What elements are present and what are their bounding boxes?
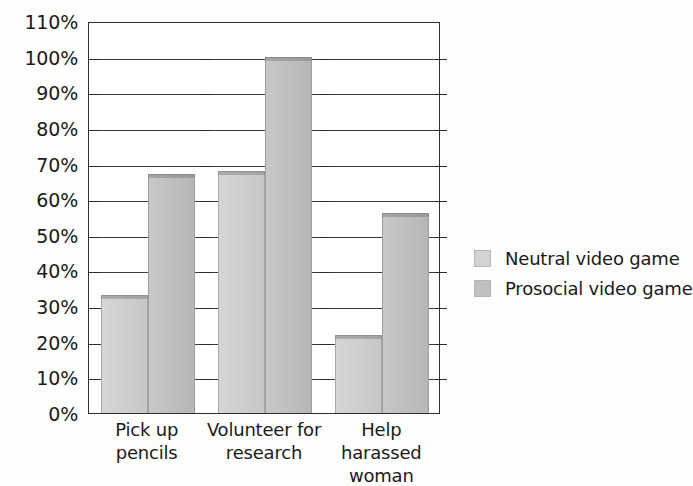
bar <box>382 213 429 413</box>
y-axis-tick-label: 100% <box>24 47 78 69</box>
axis-tickmark <box>89 166 101 167</box>
axis-tickmark <box>200 272 212 273</box>
legend-swatch-icon <box>474 280 491 297</box>
bar-top-highlight <box>265 57 312 61</box>
y-axis-tick-label: 0% <box>48 403 78 425</box>
y-axis-tick-label: 60% <box>36 189 78 211</box>
axis-tickmark <box>435 59 447 60</box>
bar <box>218 171 265 413</box>
axis-tickmark <box>435 344 447 345</box>
axis-tickmark <box>435 379 447 380</box>
y-axis-tick-label: 10% <box>36 367 78 389</box>
bars-layer <box>89 23 439 413</box>
x-axis-category-label: Pick up pencils <box>88 418 205 464</box>
x-axis-label-line: woman <box>323 464 440 486</box>
axis-tickmark <box>89 272 101 273</box>
axis-tickmark <box>89 201 101 202</box>
bar <box>265 57 312 413</box>
axis-tickmark <box>318 166 330 167</box>
axis-tickmark <box>435 237 447 238</box>
x-axis-label-line: Help harassed <box>323 418 440 464</box>
bar <box>101 295 148 413</box>
axis-tickmark <box>89 130 101 131</box>
legend-item: Neutral video game <box>474 243 684 273</box>
axis-tickmark <box>200 379 212 380</box>
axis-tickmark <box>200 166 212 167</box>
axis-tickmark <box>200 308 212 309</box>
axis-tickmark <box>318 201 330 202</box>
axis-tickmark <box>435 166 447 167</box>
axis-tickmark <box>89 94 101 95</box>
bar-top-highlight <box>101 295 148 299</box>
y-axis-tick-label: 70% <box>36 154 78 176</box>
axis-tickmark <box>318 344 330 345</box>
axis-tickmark <box>435 94 447 95</box>
legend-swatch-icon <box>474 250 491 267</box>
bar-top-highlight <box>335 335 382 339</box>
y-axis-tick-label: 30% <box>36 296 78 318</box>
bar-top-highlight <box>148 174 195 178</box>
axis-tickmark <box>200 344 212 345</box>
axis-tickmark <box>89 344 101 345</box>
bar-top-highlight <box>382 213 429 217</box>
x-axis-category-labels: Pick up pencilsVolunteer forresearchHelp… <box>88 418 440 476</box>
axis-tickmark <box>435 308 447 309</box>
axis-tickmark <box>200 201 212 202</box>
x-axis-category-label: Volunteer forresearch <box>205 418 322 464</box>
axis-tickmark <box>318 379 330 380</box>
axis-tickmark <box>200 237 212 238</box>
axis-tickmark <box>200 130 212 131</box>
axis-tickmark <box>89 379 101 380</box>
x-axis-label-line: Pick up pencils <box>88 418 205 464</box>
axis-tickmark <box>318 237 330 238</box>
y-axis-tick-label: 50% <box>36 225 78 247</box>
axis-tickmark <box>318 130 330 131</box>
bar <box>148 174 195 413</box>
legend-label: Neutral video game <box>505 248 680 269</box>
y-axis-tick-label: 40% <box>36 260 78 282</box>
axis-tickmark <box>200 59 212 60</box>
x-axis-label-line: Volunteer for <box>205 418 322 441</box>
chart-legend: Neutral video gameProsocial video game <box>474 243 684 303</box>
axis-tickmark <box>435 272 447 273</box>
legend-item: Prosocial video game <box>474 273 684 303</box>
bar-top-highlight <box>218 171 265 175</box>
bar <box>335 335 382 413</box>
axis-tickmark <box>318 272 330 273</box>
plot-area <box>88 22 440 414</box>
axis-tickmark <box>89 237 101 238</box>
legend-label: Prosocial video game <box>505 278 693 299</box>
y-axis-tick-label: 110% <box>24 11 78 33</box>
y-axis-tick-label: 20% <box>36 332 78 354</box>
y-axis-tick-label: 90% <box>36 82 78 104</box>
y-axis-tick-labels: 0%10%20%30%40%50%60%70%80%90%100%110% <box>0 22 86 414</box>
axis-tickmark <box>318 308 330 309</box>
y-axis-tick-label: 80% <box>36 118 78 140</box>
axis-tickmark <box>89 59 101 60</box>
x-axis-label-line: research <box>205 441 322 464</box>
axis-tickmark <box>318 94 330 95</box>
axis-tickmark <box>89 308 101 309</box>
axis-tickmark <box>318 59 330 60</box>
x-axis-category-label: Help harassedwoman <box>323 418 440 486</box>
axis-tickmark <box>435 130 447 131</box>
axis-tickmark <box>200 94 212 95</box>
axis-tickmark <box>435 201 447 202</box>
